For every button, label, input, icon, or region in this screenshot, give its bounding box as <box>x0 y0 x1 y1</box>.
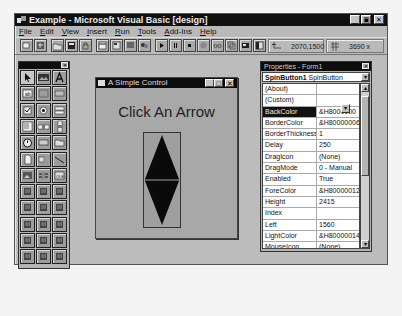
toolbox-optionbutton-button[interactable] <box>36 103 51 118</box>
menu-run[interactable]: Run <box>111 27 134 37</box>
toolbox-label-button[interactable] <box>52 70 67 85</box>
toolbox-line-button[interactable] <box>52 152 67 167</box>
toolbox-statusbar-button[interactable] <box>36 249 51 264</box>
toolbox-msflexgrid-button[interactable] <box>36 217 51 232</box>
toolbox-graph-button[interactable] <box>52 184 67 199</box>
property-row[interactable]: MouseIcon(None) <box>263 242 359 249</box>
toolbox-toolbar-button[interactable] <box>20 249 35 264</box>
toolbox-spinbutton-button[interactable] <box>20 184 35 199</box>
properties-close-button[interactable]: ✕ <box>362 63 369 69</box>
toolbox-button[interactable] <box>253 39 266 52</box>
open-project-button[interactable] <box>51 39 64 52</box>
toolbox-timer-button[interactable] <box>20 135 35 150</box>
toolbox-keystate-button[interactable] <box>20 217 35 232</box>
property-value[interactable]: &H80000006& <box>317 118 359 128</box>
toolbox-hscrollbar-button[interactable] <box>36 119 51 134</box>
instant-watch-button[interactable] <box>211 39 224 52</box>
property-row[interactable]: ForeColor&H80000012& <box>263 186 359 197</box>
property-value[interactable]: 1560 <box>317 220 359 230</box>
property-scrollbar[interactable]: ▴ ▾ <box>360 83 370 249</box>
toolbox-listbox-button[interactable] <box>20 119 35 134</box>
object-selector-dropdown[interactable]: ▾ <box>361 73 369 81</box>
toolbox-dirlistbox-button[interactable] <box>52 135 67 150</box>
property-value[interactable]: &H8000000 <box>317 107 359 117</box>
toolbox-picturebox-button[interactable] <box>36 70 51 85</box>
form-minimize-button[interactable]: _ <box>205 79 214 87</box>
toolbox-ole-button[interactable]: OLE <box>52 168 67 183</box>
project-explorer-button[interactable] <box>110 39 123 52</box>
menu-view[interactable]: View <box>58 27 83 37</box>
toolbox-commandbutton-button[interactable] <box>52 86 67 101</box>
toolbox-drivelistbox-button[interactable] <box>36 135 51 150</box>
backcolor-dropdown[interactable]: ▾ <box>341 104 350 113</box>
toolbox-gauge-button[interactable] <box>52 200 67 215</box>
toolbox-treeview-button[interactable] <box>52 249 67 264</box>
property-value[interactable]: 0 - Manual <box>317 163 359 173</box>
toolbox-comm-button[interactable] <box>52 217 67 232</box>
maximize-button[interactable]: ▣ <box>361 15 371 24</box>
form-close-button[interactable]: ✕ <box>225 79 234 87</box>
toolbox-frame-button[interactable] <box>36 86 51 101</box>
property-row[interactable]: EnabledTrue <box>263 174 359 185</box>
menu-editor-button[interactable] <box>96 39 109 52</box>
property-value[interactable]: 2415 <box>317 197 359 207</box>
minimize-button[interactable]: _ <box>350 15 360 24</box>
property-value[interactable]: &H80000014& <box>317 231 359 241</box>
end-button[interactable] <box>183 39 196 52</box>
add-form-button[interactable] <box>34 39 47 52</box>
toolbox-shape-button[interactable] <box>36 152 51 167</box>
object-selector[interactable]: SpinButton1 SpinButton <box>262 72 370 82</box>
menu-file[interactable]: File <box>15 27 36 37</box>
property-value[interactable] <box>317 208 359 218</box>
property-row[interactable]: (About) <box>263 84 359 95</box>
toolbox-outline-button[interactable] <box>36 200 51 215</box>
menu-addins[interactable]: Add-Ins <box>160 27 196 37</box>
lock-controls-button[interactable] <box>79 39 92 52</box>
property-row[interactable]: DragIcon(None) <box>263 152 359 163</box>
toolbox-data-button[interactable] <box>36 168 51 183</box>
property-row[interactable]: BorderColor&H80000006& <box>263 118 359 129</box>
toolbox-pointer-button[interactable] <box>20 70 35 85</box>
property-value[interactable]: (None) <box>317 152 359 162</box>
properties-titlebar[interactable]: Properties - Form1 <box>261 62 371 71</box>
break-button[interactable] <box>169 39 182 52</box>
toolbox-close-button[interactable]: ✕ <box>61 62 68 68</box>
toolbox-sstab-button[interactable] <box>36 233 51 248</box>
property-row[interactable]: DragMode0 - Manual <box>263 163 359 174</box>
toolbox-textbox-button[interactable]: ab <box>20 86 35 101</box>
object-browser-button[interactable] <box>138 39 151 52</box>
properties-window-button[interactable] <box>124 39 137 52</box>
toolbox-filelistbox-button[interactable] <box>20 152 35 167</box>
property-value[interactable] <box>317 95 359 105</box>
menu-tools[interactable]: Tools <box>134 27 161 37</box>
property-row[interactable]: Delay250 <box>263 140 359 151</box>
toolbox-tabstrip-button[interactable] <box>52 233 67 248</box>
property-value[interactable] <box>317 84 359 94</box>
toggle-breakpoint-button[interactable] <box>197 39 210 52</box>
property-row[interactable]: Index <box>263 208 359 219</box>
spin-button-control[interactable] <box>143 132 181 228</box>
window-titlebar[interactable]: Example - Microsoft Visual Basic [design… <box>15 14 387 26</box>
property-row[interactable]: LightColor&H80000014& <box>263 231 359 242</box>
calls-button[interactable] <box>225 39 238 52</box>
menu-insert[interactable]: Insert <box>83 27 111 37</box>
property-value[interactable]: True <box>317 174 359 184</box>
menu-edit[interactable]: Edit <box>36 27 58 37</box>
toolbox-image-button[interactable] <box>20 168 35 183</box>
scroll-down-button[interactable]: ▾ <box>361 240 369 248</box>
property-row[interactable]: Height2415 <box>263 197 359 208</box>
toolbox-combobox-button[interactable] <box>52 103 67 118</box>
scroll-thumb[interactable] <box>361 96 369 176</box>
property-value[interactable]: 250 <box>317 140 359 150</box>
scroll-up-button[interactable]: ▴ <box>361 84 369 92</box>
form-maximize-button[interactable]: □ <box>214 79 223 87</box>
menu-help[interactable]: Help <box>196 27 220 37</box>
start-button[interactable] <box>155 39 168 52</box>
toolbox-grid-button[interactable] <box>20 200 35 215</box>
toolbox-checkbox-button[interactable] <box>20 103 35 118</box>
toolbox-vscrollbar-button[interactable] <box>52 119 67 134</box>
property-row[interactable]: Left1560 <box>263 220 359 231</box>
property-value[interactable]: (None) <box>317 242 359 249</box>
property-value[interactable]: 1 <box>317 129 359 139</box>
save-project-button[interactable] <box>65 39 78 52</box>
